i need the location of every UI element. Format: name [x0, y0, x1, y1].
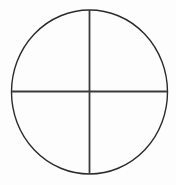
- quartered-circle-figure: Quartered circle A plain circle divided …: [0, 0, 176, 185]
- figure-background: [0, 0, 176, 185]
- figure-canvas: Quartered circle A plain circle divided …: [0, 0, 176, 185]
